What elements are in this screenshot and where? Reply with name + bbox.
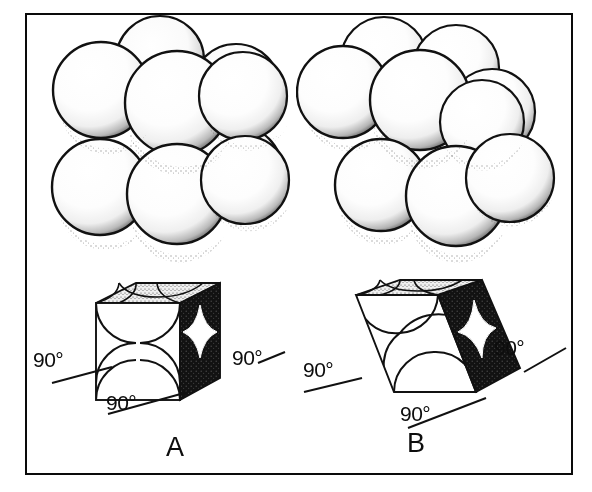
angle-label-right-a: 90° [232,346,262,370]
angle-label-bottom-a: 90° [106,391,136,415]
angle-label-bottom-b: 90° [400,402,430,426]
panel-a: 90° 90° 90° A [0,0,296,492]
angle-label-right-b: 90° [494,336,524,360]
cube-front-face [96,303,180,400]
angle-label-left-a: 90° [33,348,63,372]
unit-cell-parallelepiped [296,0,592,492]
figure-root: 90° 90° 90° A [0,0,592,492]
unit-cell-cube [0,0,296,492]
panel-letter-a: A [166,432,184,463]
panel-b: 90° 90° 90° B [296,0,592,492]
panel-letter-b: B [407,428,425,459]
angle-label-left-b: 90° [303,358,333,382]
